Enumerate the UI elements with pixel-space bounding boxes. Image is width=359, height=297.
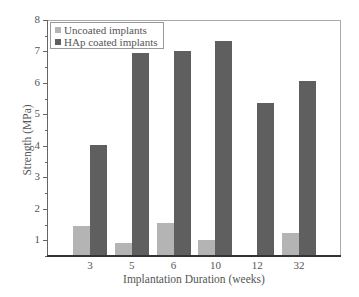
y-tick-label: 6 <box>28 76 40 88</box>
legend-swatch-hap-coated <box>55 39 61 45</box>
y-minor-tick <box>45 99 47 100</box>
x-tick-label: 10 <box>200 259 230 271</box>
x-axis-title: Implantation Duration (weeks) <box>47 273 341 285</box>
bar-uncoated <box>115 243 132 256</box>
y-tick <box>43 209 47 210</box>
x-tick-label: 12 <box>242 259 272 271</box>
y-tick <box>43 177 47 178</box>
y-minor-tick <box>45 162 47 163</box>
y-tick-label: 7 <box>28 44 40 56</box>
y-minor-tick <box>45 36 47 37</box>
y-tick-label: 2 <box>28 202 40 214</box>
y-axis-title: Strength (MPa) <box>21 104 33 175</box>
x-tick-label: 32 <box>284 259 314 271</box>
bar-hap-coated <box>132 53 149 256</box>
y-minor-tick <box>45 225 47 226</box>
bar-hap-coated <box>257 103 274 256</box>
bar-uncoated <box>157 223 174 256</box>
x-axis-line <box>47 255 341 257</box>
bar-hap-coated <box>299 81 316 256</box>
legend: Uncoated implants HAp coated implants <box>50 22 164 49</box>
y-tick <box>43 240 47 241</box>
bar-uncoated <box>73 226 90 256</box>
y-minor-tick <box>45 256 47 257</box>
bar-chart: 12345678 356101232 Implantation Duration… <box>0 0 359 297</box>
y-tick <box>43 114 47 115</box>
y-axis-line <box>47 20 48 257</box>
legend-swatch-uncoated <box>55 27 61 33</box>
y-minor-tick <box>45 130 47 131</box>
y-tick <box>43 146 47 147</box>
x-tick-label: 5 <box>117 259 147 271</box>
y-tick <box>43 83 47 84</box>
y-minor-tick <box>45 193 47 194</box>
y-tick-label: 1 <box>28 233 40 245</box>
legend-label-hap-coated: HAp coated implants <box>64 36 157 48</box>
bar-hap-coated <box>90 145 107 256</box>
bar-uncoated <box>282 233 299 256</box>
x-tick-label: 6 <box>159 259 189 271</box>
y-tick <box>43 51 47 52</box>
x-tick-label: 3 <box>75 259 105 271</box>
legend-item-hap-coated: HAp coated implants <box>55 36 163 48</box>
legend-label-uncoated: Uncoated implants <box>64 24 147 36</box>
y-tick-label: 8 <box>28 13 40 25</box>
bar-uncoated <box>198 240 215 256</box>
bar-hap-coated <box>215 41 232 256</box>
bar-hap-coated <box>174 51 191 256</box>
legend-item-uncoated: Uncoated implants <box>55 24 163 36</box>
y-minor-tick <box>45 67 47 68</box>
y-tick <box>43 20 47 21</box>
